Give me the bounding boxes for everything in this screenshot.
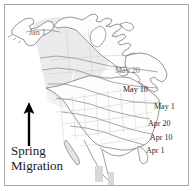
- legend-line-2: Migration: [11, 158, 81, 173]
- isochrone-label-jan-1: Jan 1: [29, 28, 46, 37]
- northward-migration-arrow: [20, 101, 38, 147]
- baffin-edge: [120, 22, 134, 31]
- isochrone-label-apr-10: Apr 10: [150, 133, 172, 142]
- legend-line-1: Spring: [11, 143, 81, 158]
- isochrone-label-may-20: May 20: [115, 66, 140, 75]
- map-stage: Jan 1 May 20 May 10 May 1 Apr 20 Apr 10 …: [0, 0, 194, 191]
- central-america-hint: [108, 172, 114, 186]
- isochrone-label-may-10: May 10: [123, 85, 148, 94]
- legend-caption: Spring Migration: [11, 143, 81, 173]
- isochrone-label-apr-20: Apr 20: [148, 119, 170, 128]
- isochrone-label-may-1: May 1: [154, 102, 175, 111]
- yucatan-hint: [95, 166, 103, 182]
- migration-map-figure: Jan 1 May 20 May 10 May 1 Apr 20 Apr 10 …: [0, 0, 194, 191]
- isochrone-label-apr-1: Apr 1: [146, 146, 164, 155]
